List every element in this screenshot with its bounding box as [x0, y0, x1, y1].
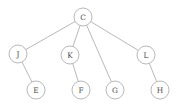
tree-edge-l-h: [149, 63, 156, 81]
tree-edge-c-k: [73, 26, 80, 47]
tree-node-e[interactable]: E: [27, 81, 45, 99]
node-label-f: F: [78, 86, 83, 95]
node-label-k: K: [67, 51, 73, 60]
tree-edge-c-g: [87, 25, 112, 82]
tree-node-c[interactable]: C: [74, 8, 92, 26]
node-label-l: L: [144, 51, 149, 60]
edge-layer: [22, 21, 157, 81]
tree-canvas: CJKLEFGH: [0, 0, 182, 112]
tree-diagram: CJKLEFGH: [0, 0, 182, 112]
tree-node-h[interactable]: H: [151, 81, 169, 99]
tree-node-g[interactable]: G: [106, 81, 124, 99]
node-label-j: J: [16, 50, 20, 59]
tree-node-j[interactable]: J: [9, 45, 27, 63]
tree-edge-c-l: [91, 22, 139, 51]
tree-edge-c-j: [26, 21, 75, 49]
node-label-g: G: [112, 86, 118, 95]
tree-node-l[interactable]: L: [137, 46, 155, 64]
tree-node-k[interactable]: K: [61, 46, 79, 64]
tree-edge-k-f: [73, 64, 79, 82]
node-label-e: E: [33, 86, 38, 95]
tree-edge-j-e: [22, 62, 32, 82]
node-layer: CJKLEFGH: [9, 8, 169, 99]
tree-node-f[interactable]: F: [72, 81, 90, 99]
node-label-c: C: [80, 13, 86, 22]
node-label-h: H: [157, 86, 164, 95]
